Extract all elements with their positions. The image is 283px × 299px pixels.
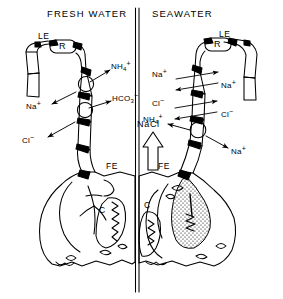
label-r-right: R <box>214 39 221 49</box>
chloride-paracellular-pair <box>175 101 217 119</box>
header-seawater: SEAWATER <box>152 8 213 19</box>
arrow-na-in <box>52 92 76 104</box>
label-c-right: C <box>144 200 151 210</box>
ion-na-paracellular-left: Na+ <box>152 68 167 79</box>
ion-na-left: Na+ <box>26 100 41 111</box>
ion-cl-paracellular-left: Cl− <box>152 97 164 108</box>
label-fe-left: FE <box>106 161 118 171</box>
arrow-cl-in <box>48 122 75 137</box>
arrow-na-out <box>206 136 228 148</box>
left-apical-crypt <box>78 170 90 179</box>
sodium-paracellular-pair <box>176 72 218 90</box>
label-le-left: LE <box>38 31 50 41</box>
right-apical-crypt <box>178 170 191 180</box>
ion-na-right: Na+ <box>231 145 246 156</box>
seawater-cell-body <box>139 172 236 266</box>
label-r-left: R <box>59 41 66 51</box>
label-fe-right: FE <box>158 161 170 171</box>
label-c-left: C <box>99 205 106 215</box>
header-fresh-water: FRESH WATER <box>47 8 127 19</box>
fresh-water-cell-body <box>40 172 136 266</box>
arrow-hco3-out <box>89 101 111 108</box>
arrow-nh4-out <box>90 70 110 82</box>
ion-na-paracellular-right: Na+ <box>221 79 236 90</box>
ion-cl-paracellular-right: Cl− <box>221 108 233 119</box>
ion-cl-left: Cl− <box>22 134 34 145</box>
arrow-nh4-out <box>168 124 190 130</box>
ion-nh4-left: NH4+ <box>111 60 131 72</box>
ion-hco3-left: HCO3− <box>112 92 138 104</box>
label-le-right: LE <box>219 29 231 39</box>
label-nacl: NaCl <box>137 119 160 129</box>
